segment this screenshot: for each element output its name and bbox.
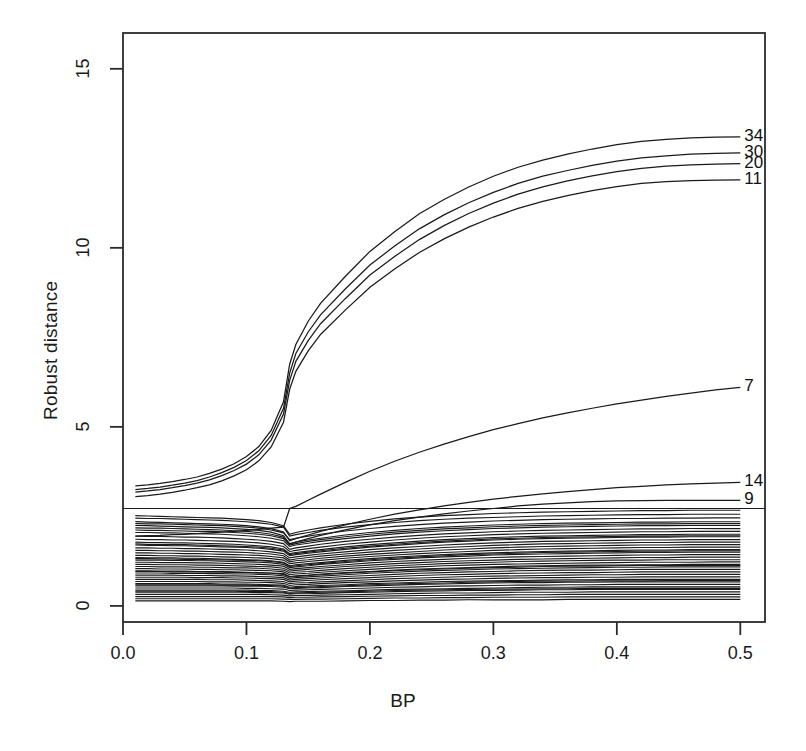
x-tick-label: 0.5 xyxy=(710,643,770,664)
x-tick-label: 0.1 xyxy=(216,643,276,664)
y-tick-label: 15 xyxy=(73,48,94,88)
x-tick-label: 0.3 xyxy=(463,643,523,664)
series-end-label: 7 xyxy=(744,376,753,396)
y-tick-label: 5 xyxy=(73,406,94,446)
x-axis-title: BP xyxy=(0,690,806,712)
plot-canvas xyxy=(0,0,806,751)
x-tick-label: 0.4 xyxy=(587,643,647,664)
x-tick-label: 0.0 xyxy=(93,643,153,664)
x-tick-label: 0.2 xyxy=(340,643,400,664)
x-tick-marks xyxy=(123,622,740,635)
band-curve xyxy=(135,599,740,601)
outlier-curve xyxy=(135,164,740,492)
series-end-label: 11 xyxy=(744,169,762,189)
y-tick-marks xyxy=(110,69,123,606)
series-end-label: 9 xyxy=(744,489,753,509)
y-axis-title: Robust distance xyxy=(40,281,62,420)
y-tick-label: 0 xyxy=(73,585,94,625)
robust-distance-chart: 0.00.10.20.30.40.5051015 343020117149 BP… xyxy=(0,0,806,751)
outlier-curve xyxy=(135,387,740,536)
outlier-curves-layer xyxy=(135,137,740,544)
y-tick-label: 10 xyxy=(73,227,94,267)
outlier-curve xyxy=(135,137,740,486)
outlier-curve xyxy=(135,180,740,497)
